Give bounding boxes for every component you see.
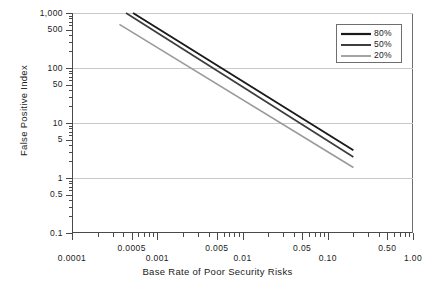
x-tick-major	[132, 233, 133, 240]
y-tick-minor	[69, 73, 73, 74]
x-tick-label: 0.10	[319, 253, 337, 263]
y-tick-label: 50	[53, 79, 63, 89]
y-tick-minor	[69, 16, 73, 17]
x-tick-major	[157, 233, 158, 240]
x-tick-major	[302, 233, 303, 240]
chart-figure: 1,0005001005010510.50.1 0.00050.0050.050…	[0, 0, 435, 292]
x-tick-minor	[98, 233, 99, 237]
x-tick-minor	[315, 233, 316, 237]
x-axis-title: Base Rate of Poor Security Risks	[0, 266, 435, 277]
x-tick-label: 1.00	[404, 253, 422, 263]
y-tick-minor	[69, 128, 73, 129]
y-tick-label: 1	[58, 173, 63, 183]
y-tick-major	[66, 13, 73, 14]
y-tick-label: 100	[48, 63, 63, 73]
x-tick-minor	[198, 233, 199, 237]
y-tick-label: 0.1	[50, 228, 63, 238]
gridline-y	[72, 68, 413, 69]
x-tick-minor	[309, 233, 310, 237]
x-tick-minor	[224, 233, 225, 237]
x-tick-minor	[379, 233, 380, 237]
x-tick-minor	[239, 233, 240, 237]
y-tick-major	[66, 30, 73, 31]
y-tick-minor	[69, 97, 73, 98]
y-tick-major	[66, 195, 73, 196]
y-tick-label: 0.5	[50, 189, 63, 199]
gridline-y	[72, 13, 413, 14]
x-tick-minor	[294, 233, 295, 237]
x-tick-label: 0.001	[146, 253, 169, 263]
legend-swatch-80	[341, 30, 371, 38]
y-tick-label: 5	[58, 134, 63, 144]
y-tick-label: 1,000	[40, 8, 63, 18]
x-tick-major	[243, 233, 244, 240]
y-tick-minor	[69, 161, 73, 162]
x-tick-minor	[268, 233, 269, 237]
y-tick-minor	[69, 22, 73, 23]
x-tick-minor	[283, 233, 284, 237]
x-tick-label: 0.50	[378, 243, 396, 253]
x-tick-minor	[138, 233, 139, 237]
x-tick-major	[413, 233, 414, 240]
y-tick-label: 10	[53, 118, 63, 128]
x-tick-minor	[234, 233, 235, 237]
x-tick-minor	[144, 233, 145, 237]
x-tick-label: 0.05	[293, 243, 311, 253]
y-tick-minor	[69, 216, 73, 217]
y-tick-major	[66, 68, 73, 69]
y-tick-minor	[69, 80, 73, 81]
y-tick-minor	[69, 18, 73, 19]
legend-label-20: 20%	[374, 50, 392, 61]
legend-label-80: 80%	[374, 28, 392, 39]
y-tick-minor	[69, 106, 73, 107]
legend-swatch-20	[341, 52, 371, 60]
x-tick-minor	[153, 233, 154, 237]
y-tick-minor	[69, 207, 73, 208]
y-tick-major	[66, 123, 73, 124]
y-tick-minor	[69, 200, 73, 201]
legend-swatch-50	[341, 41, 371, 49]
x-tick-minor	[113, 233, 114, 237]
x-tick-major	[72, 233, 73, 240]
y-tick-major	[66, 140, 73, 141]
legend-item-50: 50%	[341, 39, 397, 50]
y-tick-minor	[69, 152, 73, 153]
x-tick-label: 0.01	[233, 253, 251, 263]
legend: 80% 50% 20%	[336, 24, 402, 63]
x-tick-label: 0.0005	[117, 243, 145, 253]
y-tick-minor	[69, 181, 73, 182]
x-tick-minor	[409, 233, 410, 237]
x-tick-major	[328, 233, 329, 240]
y-tick-minor	[69, 35, 73, 36]
gridline-y	[72, 178, 413, 179]
x-tick-major	[217, 233, 218, 240]
gridline-y	[72, 123, 413, 124]
x-tick-minor	[229, 233, 230, 237]
y-tick-minor	[69, 145, 73, 146]
y-tick-major	[66, 85, 73, 86]
x-tick-minor	[149, 233, 150, 237]
legend-label-50: 50%	[374, 39, 392, 50]
y-tick-minor	[69, 187, 73, 188]
y-axis-title: False Positive Index	[18, 41, 29, 181]
y-tick-major	[66, 178, 73, 179]
x-tick-minor	[123, 233, 124, 237]
x-tick-minor	[400, 233, 401, 237]
legend-item-80: 80%	[341, 28, 397, 39]
y-tick-minor	[69, 126, 73, 127]
x-tick-label: 0.0001	[58, 253, 86, 263]
x-tick-minor	[368, 233, 369, 237]
y-tick-minor	[69, 135, 73, 136]
y-tick-minor	[69, 132, 73, 133]
x-tick-minor	[320, 233, 321, 237]
x-tick-minor	[209, 233, 210, 237]
x-tick-minor	[405, 233, 406, 237]
y-tick-label: 500	[48, 24, 63, 34]
y-tick-minor	[69, 190, 73, 191]
x-tick-label: 0.005	[205, 243, 228, 253]
y-tick-minor	[69, 183, 73, 184]
x-tick-minor	[394, 233, 395, 237]
x-tick-minor	[353, 233, 354, 237]
x-tick-minor	[324, 233, 325, 237]
y-tick-minor	[69, 42, 73, 43]
